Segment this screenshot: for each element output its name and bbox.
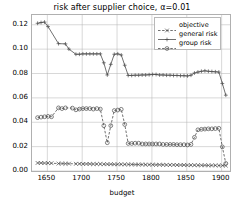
y-tick-label: 0.02 bbox=[2, 142, 28, 150]
x-tick-label: 1850 bbox=[171, 174, 201, 182]
x-axis-label: budget bbox=[0, 189, 244, 197]
x-tick-label: 1650 bbox=[31, 174, 61, 182]
x-tick-label: 1750 bbox=[101, 174, 131, 182]
legend-marker-x-icon bbox=[157, 20, 177, 29]
legend-label: objective bbox=[177, 21, 209, 29]
y-tick-label: 0.10 bbox=[2, 44, 28, 52]
x-tick-label: 1900 bbox=[206, 174, 236, 182]
y-tick-label: 0.04 bbox=[2, 117, 28, 125]
chart-figure: risk after supplier choice, α=0.01 risk … bbox=[0, 0, 244, 204]
y-tick-label: 0.06 bbox=[2, 93, 28, 101]
y-tick-label: 0.08 bbox=[2, 69, 28, 77]
series-group-risk bbox=[36, 106, 228, 165]
legend-marker-o-icon bbox=[157, 38, 177, 47]
legend-label: group risk bbox=[177, 39, 212, 47]
series-objective bbox=[36, 161, 228, 167]
y-tick-label: 0.00 bbox=[2, 166, 28, 174]
legend: objectivegeneral riskgroup risk bbox=[154, 17, 221, 50]
x-tick-label: 1700 bbox=[66, 174, 96, 182]
legend-label: general risk bbox=[177, 30, 217, 38]
legend-item-objective[interactable]: objective bbox=[157, 20, 217, 29]
legend-marker-+-icon bbox=[157, 29, 177, 38]
x-tick-label: 1800 bbox=[136, 174, 166, 182]
y-tick-label: 0.12 bbox=[2, 20, 28, 28]
chart-title: risk after supplier choice, α=0.01 bbox=[0, 3, 244, 12]
legend-item-general-risk[interactable]: general risk bbox=[157, 29, 217, 38]
legend-item-group-risk[interactable]: group risk bbox=[157, 38, 217, 47]
